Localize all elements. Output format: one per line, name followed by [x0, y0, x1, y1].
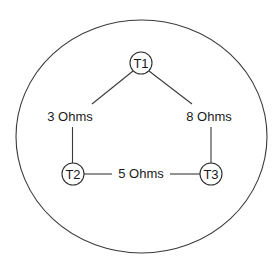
node-t1-label: T1: [133, 56, 148, 71]
node-t3: T3: [200, 163, 222, 185]
node-t2-label: T2: [65, 167, 80, 182]
edge-label-8-ohms: 8 Ohms: [186, 109, 232, 124]
node-t2: T2: [62, 163, 84, 185]
node-t3-label: T3: [203, 167, 218, 182]
edge-t1-t3: 8 Ohms: [149, 71, 232, 163]
edge-t1-t2: 3 Ohms: [47, 71, 133, 163]
edge-t2-t3: 5 Ohms: [84, 166, 200, 181]
edge-t1-t3-diagonal: [149, 71, 192, 104]
network-diagram: 3 Ohms 8 Ohms 5 Ohms T1 T2 T3: [0, 0, 278, 266]
edge-label-5-ohms: 5 Ohms: [118, 166, 164, 181]
edge-t1-t2-diagonal: [92, 71, 133, 104]
node-t1: T1: [130, 52, 152, 74]
edge-label-3-ohms: 3 Ohms: [47, 109, 93, 124]
